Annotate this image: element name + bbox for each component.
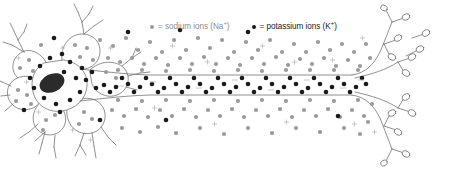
legend-item-sodium: = sodium ions (Na+) bbox=[150, 23, 230, 31]
legend: = sodium ions (Na+) = potassium ions (K+… bbox=[150, 19, 450, 35]
dendrite-upper-mid bbox=[62, 4, 103, 69]
neuron-diagram-figure: = sodium ions (Na+) = potassium ions (K+… bbox=[0, 0, 457, 171]
legend-label-sodium: = sodium ions (Na+) bbox=[158, 23, 230, 31]
dendrite-lower-mid bbox=[67, 98, 116, 158]
charge-marks-inside bbox=[118, 80, 364, 90]
sodium-ion-dot-icon bbox=[150, 25, 154, 29]
legend-label-potassium: = potassium ions (K+) bbox=[260, 23, 337, 31]
potassium-ion-dot-icon bbox=[252, 25, 256, 29]
legend-item-potassium: = potassium ions (K+) bbox=[252, 23, 337, 31]
